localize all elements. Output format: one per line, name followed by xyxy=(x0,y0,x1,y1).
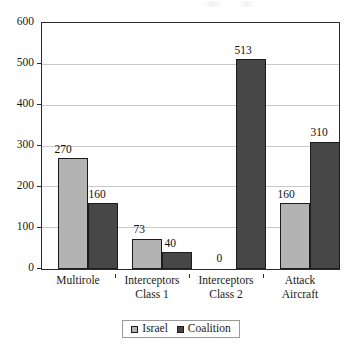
bars-layer: 270 160 73 40 0 513 160 310 xyxy=(43,24,339,269)
y-tick-label: 0 xyxy=(28,262,34,274)
y-axis: 600 500 400 300 200 100 0 xyxy=(0,0,38,292)
x-category-label-interceptors-class-2: Interceptors Class 2 xyxy=(189,274,263,301)
bar-israel-multirole[interactable] xyxy=(58,158,88,268)
x-label-line: Multirole xyxy=(41,274,115,288)
x-category-label-attack-aircraft: Attack Aircraft xyxy=(263,274,337,301)
x-label-line: Class 2 xyxy=(189,288,263,302)
x-label-line: Interceptors xyxy=(115,274,189,288)
legend-label: Coalition xyxy=(188,323,231,335)
legend-swatch-icon xyxy=(131,326,138,333)
bar-group-attack-aircraft: 160 310 xyxy=(265,24,339,269)
bar-group-interceptors-class-2: 0 513 xyxy=(191,24,265,269)
x-category-label-interceptors-class-1: Interceptors Class 1 xyxy=(115,274,189,301)
y-tick-label: 200 xyxy=(17,180,34,192)
legend-item-israel[interactable]: Israel xyxy=(131,323,168,335)
y-tick-label: 300 xyxy=(17,139,34,151)
bar-value-label: 0 xyxy=(217,253,223,265)
legend: Israel Coalition xyxy=(122,320,240,338)
bar-coalition-interceptors-class-1[interactable] xyxy=(162,252,192,268)
bar-coalition-attack-aircraft[interactable] xyxy=(310,142,340,269)
x-label-line: Attack xyxy=(263,274,337,288)
y-tick-label: 400 xyxy=(17,98,34,110)
bar-value-label: 270 xyxy=(55,144,72,156)
legend-item-coalition[interactable]: Coalition xyxy=(177,323,231,335)
bar-group-multirole: 270 160 xyxy=(43,24,117,269)
bar-value-label: 40 xyxy=(165,238,177,250)
x-label-line: Interceptors xyxy=(189,274,263,288)
legend-swatch-icon xyxy=(177,326,184,333)
bar-value-label: 73 xyxy=(134,224,146,236)
bar-israel-attack-aircraft[interactable] xyxy=(280,203,310,268)
bar-value-label: 310 xyxy=(311,127,328,139)
top-edge-artifact xyxy=(200,1,270,7)
bar-israel-interceptors-class-1[interactable] xyxy=(132,239,162,269)
bar-value-label: 160 xyxy=(89,189,106,201)
x-label-line: Class 1 xyxy=(115,288,189,302)
bar-coalition-multirole[interactable] xyxy=(88,203,118,268)
bar-value-label: 160 xyxy=(278,189,295,201)
x-category-label-multirole: Multirole xyxy=(41,274,115,288)
x-axis: Multirole Interceptors Class 1 Intercept… xyxy=(41,274,340,308)
bar-coalition-interceptors-class-2[interactable] xyxy=(236,59,266,269)
legend-label: Israel xyxy=(142,323,168,335)
bar-chart: 600 500 400 300 200 100 0 270 160 xyxy=(0,0,349,346)
y-tick-label: 100 xyxy=(17,221,34,233)
y-tick-label: 600 xyxy=(17,16,34,28)
y-tick-label: 500 xyxy=(17,57,34,69)
bar-value-label: 513 xyxy=(235,45,252,57)
bar-group-interceptors-class-1: 73 40 xyxy=(117,24,191,269)
x-label-line: Aircraft xyxy=(263,288,337,302)
